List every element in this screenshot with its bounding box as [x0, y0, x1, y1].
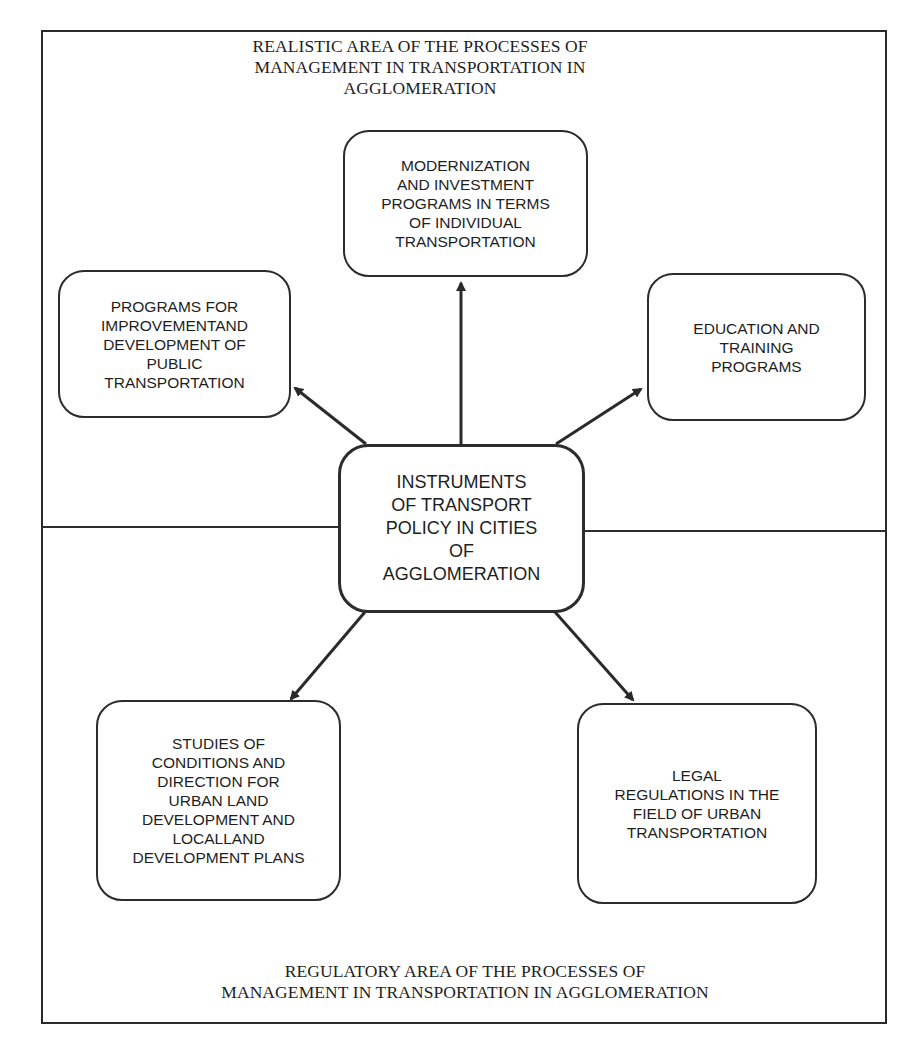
center-label: INSTRUMENTS OF TRANSPORT POLICY IN CITIE… — [383, 471, 541, 586]
area-divider-left — [42, 526, 339, 528]
node-label: LEGAL REGULATIONS IN THE FIELD OF URBAN … — [615, 766, 780, 842]
regulatory-area-title: REGULATORY AREA OF THE PROCESSES OF MANA… — [100, 961, 830, 1003]
node-public-transport: PROGRAMS FOR IMPROVEMENTAND DEVELOPMENT … — [58, 270, 291, 418]
node-label: MODERNIZATION AND INVESTMENT PROGRAMS IN… — [381, 156, 550, 251]
area-divider-right — [584, 530, 886, 532]
node-modernization: MODERNIZATION AND INVESTMENT PROGRAMS IN… — [343, 130, 588, 277]
node-label: PROGRAMS FOR IMPROVEMENTAND DEVELOPMENT … — [101, 297, 248, 392]
node-center-instruments: INSTRUMENTS OF TRANSPORT POLICY IN CITIE… — [338, 444, 585, 613]
node-education: EDUCATION AND TRAINING PROGRAMS — [647, 273, 866, 421]
node-label: EDUCATION AND TRAINING PROGRAMS — [693, 319, 819, 376]
node-legal: LEGAL REGULATIONS IN THE FIELD OF URBAN … — [577, 703, 817, 904]
node-studies: STUDIES OF CONDITIONS AND DIRECTION FOR … — [96, 700, 341, 901]
node-label: STUDIES OF CONDITIONS AND DIRECTION FOR … — [133, 734, 305, 867]
realistic-area-title: REALISTIC AREA OF THE PROCESSES OF MANAG… — [150, 36, 690, 99]
